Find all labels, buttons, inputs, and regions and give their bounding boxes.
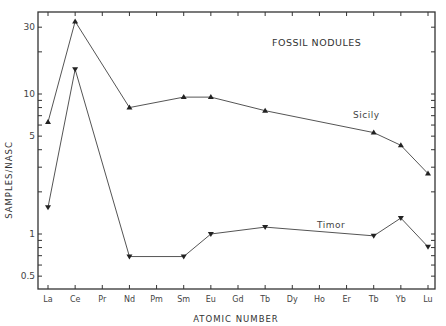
data-point-marker <box>72 18 78 23</box>
series-line-timor <box>48 69 428 256</box>
rare-earth-chart: 0.5151030 LaCePrNdPmSmEuGdTbDyHoErTbYbLu… <box>0 0 446 326</box>
y-axis-title: SAMPLES/NASC <box>4 141 14 219</box>
y-tick-label: 10 <box>24 89 36 99</box>
x-category-label: Dy <box>287 295 298 304</box>
x-axis-title: ATOMIC NUMBER <box>193 314 279 324</box>
series-line-sicily <box>48 21 428 173</box>
data-point-marker <box>45 205 51 210</box>
x-category-label: Er <box>342 295 351 304</box>
y-tick-label: 5 <box>29 131 35 141</box>
x-category-label: Gd <box>232 295 243 304</box>
data-series <box>45 18 431 259</box>
x-category-label: La <box>43 295 52 304</box>
data-point-marker <box>371 234 377 239</box>
x-axis-ticks: LaCePrNdPmSmEuGdTbDyHoErTbYbLu <box>43 12 432 304</box>
x-category-label: Nd <box>124 295 135 304</box>
x-category-label: Eu <box>206 295 216 304</box>
plot-frame <box>38 12 435 289</box>
data-point-marker <box>72 67 78 72</box>
x-category-label: Yb <box>395 295 406 304</box>
chart-title: FOSSIL NODULES <box>272 37 361 48</box>
x-category-label: Ce <box>70 295 81 304</box>
plot-border <box>38 12 435 289</box>
y-tick-label: 30 <box>24 22 36 32</box>
series-label-sicily: Sicily <box>353 110 380 120</box>
x-category-label: Sm <box>177 295 190 304</box>
x-category-label: Pm <box>150 295 163 304</box>
series-label-timor: Timor <box>316 220 345 230</box>
x-category-label: Ho <box>314 295 325 304</box>
x-category-label: Tb <box>368 295 379 304</box>
data-point-marker <box>45 119 51 124</box>
data-point-marker <box>425 245 431 250</box>
y-axis-ticks: 0.5151030 <box>21 22 435 281</box>
y-tick-label: 0.5 <box>21 271 35 281</box>
x-category-label: Tb <box>259 295 270 304</box>
x-category-label: Lu <box>423 295 432 304</box>
y-tick-label: 1 <box>29 229 35 239</box>
x-category-label: Pr <box>98 295 107 304</box>
